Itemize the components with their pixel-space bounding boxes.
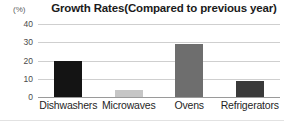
x-axis-label-refrigerators: Refrigerators bbox=[221, 99, 279, 111]
plot-area: 010203040 bbox=[38, 24, 280, 97]
bar-dishwashers bbox=[54, 61, 82, 97]
y-axis-tick-label: 30 bbox=[24, 37, 33, 47]
chart-title: Growth Rates(Compared to previous year) bbox=[46, 2, 282, 14]
y-axis-tick-label: 0 bbox=[28, 92, 33, 102]
bottom-divider bbox=[0, 120, 284, 121]
x-axis-label-microwaves: Microwaves bbox=[102, 99, 155, 111]
x-axis-label-dishwashers: Dishwashers bbox=[39, 99, 97, 111]
x-axis-label-ovens: Ovens bbox=[175, 99, 204, 111]
gridline bbox=[38, 97, 280, 98]
bar-ovens bbox=[175, 44, 203, 97]
y-axis-tick-label: 10 bbox=[24, 74, 33, 84]
y-axis-tick-label: 20 bbox=[24, 56, 33, 66]
bars-group bbox=[38, 24, 280, 97]
bar-refrigerators bbox=[236, 81, 264, 97]
y-axis-unit-label: (%) bbox=[13, 5, 25, 14]
growth-rates-bar-chart: Growth Rates(Compared to previous year) … bbox=[0, 0, 284, 128]
y-axis-tick-label: 40 bbox=[24, 19, 33, 29]
x-axis-category-labels: DishwashersMicrowavesOvensRefrigerators bbox=[38, 99, 280, 119]
bar-microwaves bbox=[115, 90, 143, 97]
